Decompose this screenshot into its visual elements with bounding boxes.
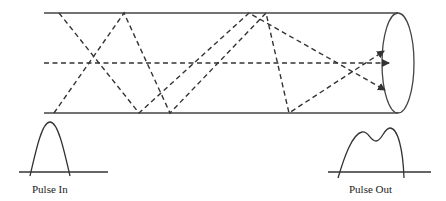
fiber-diagram [0,0,446,201]
pulse-out-graph [328,128,431,178]
light-rays [44,13,389,113]
pulse-in-label: Pulse In [32,183,68,195]
pulse-out-label: Pulse Out [349,183,392,195]
pulse-in-graph [19,122,108,176]
pulse-out-waveform [338,128,404,178]
pulse-in-waveform [30,122,70,176]
